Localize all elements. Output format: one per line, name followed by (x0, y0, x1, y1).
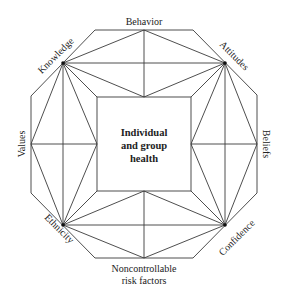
octagon-diagram: Behavior Knowledge Attitudes Beliefs Val… (0, 0, 286, 294)
center-label-line1: Individual (121, 127, 168, 138)
fan-ethnicity (31, 144, 144, 258)
label-values: Values (16, 131, 27, 158)
center-label-line3: health (130, 153, 158, 164)
label-risk-factors: risk factors (122, 275, 167, 286)
label-noncontrollable: Noncontrollable (112, 263, 178, 274)
center-label-line2: and group (121, 140, 167, 151)
label-beliefs: Beliefs (261, 130, 272, 158)
label-behavior: Behavior (126, 16, 163, 27)
diagram-root: Behavior Knowledge Attitudes Beliefs Val… (0, 0, 286, 294)
